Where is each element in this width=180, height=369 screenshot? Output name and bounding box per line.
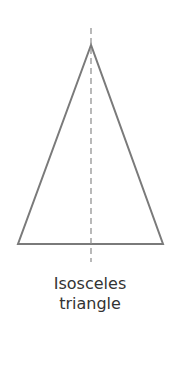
caption-line-2: triangle — [0, 294, 180, 314]
caption-line-1: Isosceles — [0, 274, 180, 294]
triangle-outline — [18, 45, 163, 244]
